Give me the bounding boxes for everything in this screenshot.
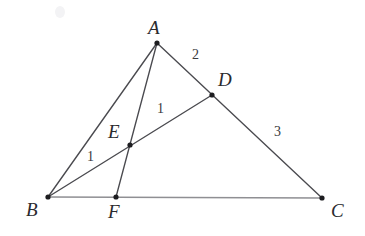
length-label-dc: 3 — [274, 125, 281, 139]
vertex-dot-a — [154, 40, 159, 45]
segment-bc — [48, 197, 322, 198]
figure-canvas — [0, 0, 365, 236]
point-label-d: D — [218, 70, 232, 89]
vertex-dot-d — [209, 92, 214, 97]
vertex-dot-e — [127, 142, 132, 147]
geometry-figure: A B C D E F 2 3 1 1 — [0, 0, 365, 236]
point-label-a: A — [148, 18, 160, 37]
vertex-dot-c — [319, 195, 324, 200]
vertex-dot-b — [45, 194, 50, 199]
scan-smudge-artifact — [55, 6, 65, 18]
point-label-c: C — [331, 201, 344, 220]
vertex-dot-f — [113, 194, 118, 199]
point-label-e: E — [108, 122, 120, 141]
length-label-be: 1 — [87, 150, 94, 164]
point-label-f: F — [108, 202, 120, 221]
segment-ab — [48, 43, 157, 197]
segment-ac — [157, 43, 322, 198]
length-label-ed: 1 — [157, 102, 164, 116]
length-label-ad: 2 — [192, 48, 199, 62]
point-label-b: B — [26, 200, 38, 219]
segment-af-cevian — [116, 43, 157, 197]
